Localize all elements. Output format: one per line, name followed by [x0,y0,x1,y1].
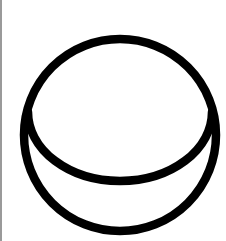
circle-with-inner-arc-icon [0,0,226,241]
inner-arc [28,112,212,181]
outer-circle [24,39,216,231]
